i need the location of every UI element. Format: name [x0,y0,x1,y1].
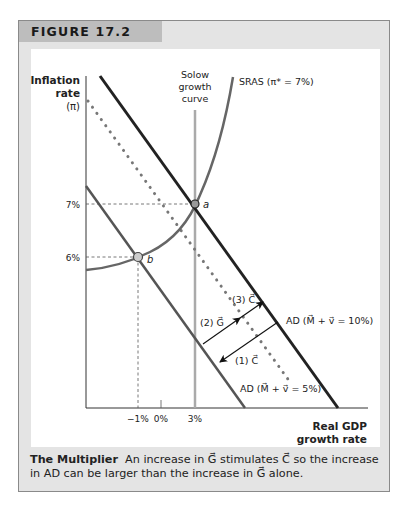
caption-title: The Multiplier [30,453,118,466]
y-axis-label-line3: (π) [66,101,80,112]
x-axis-label-line2: growth rate [297,433,367,445]
solow-label-line3: curve [182,93,209,104]
x-tick-3: 3% [188,414,203,424]
x-tick-0: 0% [154,414,169,424]
ad-high-label: AD (M⃗ + v⃗ = 10%) [286,314,373,326]
point-a-label: a [203,199,209,210]
ad-low-curve [86,186,245,408]
ad-high-curve [100,76,338,408]
point-b[interactable] [134,253,143,262]
arrow-3-label: (3) C⃗ [232,293,255,305]
y-tick-6: 6% [66,253,81,263]
arrow-1-label: (1) C⃗ [235,354,258,366]
point-b-label: b [147,254,153,265]
y-tick-7: 7% [66,200,81,210]
sras-curve [86,77,233,270]
arrow-2-label: (2) G⃗ [200,316,224,328]
x-tick-minus1: −1% [127,414,149,424]
ad-low-label: AD (M⃗ + v⃗ = 5%) [240,382,321,394]
chart-svg: Inflation rate (π) Solow growth curve SR… [0,0,402,511]
y-axis-label-line2: rate [56,87,80,99]
solow-label-line2: growth [178,81,211,92]
y-axis-label-line1: Inflation [30,74,80,86]
ad-intermediate-dotted [88,101,290,382]
x-axis-label-line1: Real GDP [312,420,367,432]
sras-label: SRAS (π* = 7%) [239,76,314,87]
figure-caption: The Multiplier An increase in G⃗ stimula… [30,453,380,481]
point-a[interactable] [191,200,199,208]
solow-label-line1: Solow [181,69,209,80]
